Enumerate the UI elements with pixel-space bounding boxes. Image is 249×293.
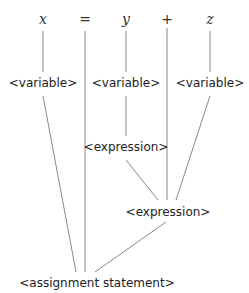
token-x: x [39,11,47,27]
edge-variable-z-expression [176,96,210,200]
node-assignment-statement: <assignment statement> [19,276,175,290]
node-expression-inner: <expression> [84,140,169,154]
node-variable-z: <variable> [176,76,245,90]
token-y: y [121,11,131,27]
parse-tree-diagram: x = y + z <variable> <variable> <variabl… [0,0,249,293]
token-plus: + [161,11,173,27]
node-variable-y: <variable> [92,76,161,90]
edge-variable-x-assignment [43,96,76,272]
node-variable-x: <variable> [9,76,78,90]
node-expression-outer: <expression> [126,205,211,219]
edge-expression-assignment [95,222,166,272]
token-z: z [205,11,214,27]
token-equals: = [79,11,91,27]
edge-expression-expression [126,160,158,200]
